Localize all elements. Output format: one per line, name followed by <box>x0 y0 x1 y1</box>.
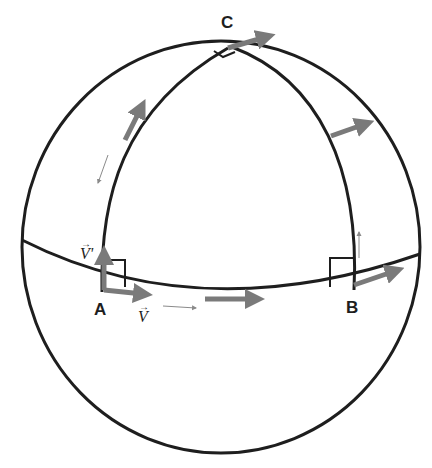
vector-v-at-a <box>104 290 143 294</box>
point-label-c: C <box>221 14 233 31</box>
right-angle-b <box>330 258 354 287</box>
vector-label-v-prime: → V' <box>80 246 93 262</box>
vector-meridian-cb <box>331 124 365 136</box>
small-arrow-equator <box>163 306 196 308</box>
meridian-ac <box>102 48 228 292</box>
meridian-cb <box>232 47 355 290</box>
point-label-a: A <box>94 301 106 318</box>
vector-arrow-accent-icon: → <box>81 239 91 249</box>
vector-meridian-ac <box>125 108 141 140</box>
point-label-b: B <box>346 299 358 316</box>
sphere-diagram <box>0 0 432 468</box>
vector-arrow-accent-icon: → <box>139 302 149 312</box>
small-arrow-meridian-ac <box>98 155 108 183</box>
vector-label-v: → V <box>138 309 148 325</box>
